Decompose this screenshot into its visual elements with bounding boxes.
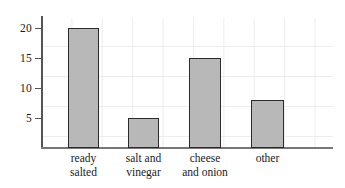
y-tick-label-20: 20 (2, 23, 32, 35)
x-label-other-line1: other (256, 152, 280, 164)
x-label-salt-and-vinegar-line1: salt and (126, 152, 161, 164)
bar-ready-salted[interactable] (68, 28, 99, 148)
bar-other[interactable] (251, 100, 284, 148)
y-tick-mark-5 (35, 118, 43, 119)
bar-cheese-and-onion[interactable] (189, 58, 221, 148)
y-axis-line (41, 16, 43, 149)
y-tick-mark-10 (35, 88, 43, 89)
bar-chart-figure: 5 10 15 20 ready salted salt and vinegar… (0, 0, 345, 188)
x-label-cheese-and-onion: cheese and onion (169, 152, 241, 179)
x-label-other: other (232, 152, 303, 166)
y-tick-label-5: 5 (2, 113, 32, 125)
bar-salt-and-vinegar[interactable] (128, 118, 159, 148)
y-tick-label-10: 10 (2, 83, 32, 95)
x-label-cheese-and-onion-line2: and onion (169, 166, 241, 180)
x-label-cheese-and-onion-line1: cheese (190, 152, 221, 164)
y-tick-mark-20 (35, 28, 43, 29)
y-tick-label-15: 15 (2, 53, 32, 65)
y-tick-mark-15 (35, 58, 43, 59)
x-label-ready-salted-line1: ready (71, 152, 97, 164)
